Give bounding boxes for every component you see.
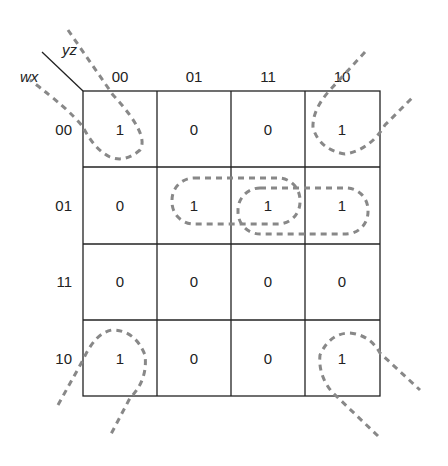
cell-10-01: 0 xyxy=(190,350,198,367)
row-variable-label: wx xyxy=(20,68,39,85)
col-label-00: 00 xyxy=(112,68,129,85)
cell-11-00: 0 xyxy=(116,273,124,290)
cell-01-10: 1 xyxy=(338,197,346,214)
col-variable-label: yz xyxy=(61,41,78,58)
row-label-10: 10 xyxy=(55,350,72,367)
cell-00-01: 0 xyxy=(190,121,198,138)
cell-10-10: 1 xyxy=(338,350,346,367)
cell-11-10: 0 xyxy=(338,273,346,290)
karnaugh-map: yz wx 00 01 11 10 00 01 11 10 1 0 0 1 0 … xyxy=(0,0,448,466)
cell-01-00: 0 xyxy=(116,197,124,214)
cell-01-11: 1 xyxy=(264,197,272,214)
kmap-grid xyxy=(83,91,380,396)
cell-00-10: 1 xyxy=(338,121,346,138)
row-label-00: 00 xyxy=(55,121,72,138)
col-label-11: 11 xyxy=(260,68,276,85)
col-label-01: 01 xyxy=(186,68,203,85)
cell-10-00: 1 xyxy=(116,350,124,367)
cell-00-00: 1 xyxy=(116,121,124,138)
cell-01-01: 1 xyxy=(190,197,198,214)
cell-00-11: 0 xyxy=(264,121,272,138)
cell-11-11: 0 xyxy=(264,273,272,290)
row-label-11: 11 xyxy=(56,273,72,290)
cell-10-11: 0 xyxy=(264,350,272,367)
cell-11-01: 0 xyxy=(190,273,198,290)
group-01-11-10 xyxy=(238,188,368,234)
row-label-01: 01 xyxy=(55,197,72,214)
